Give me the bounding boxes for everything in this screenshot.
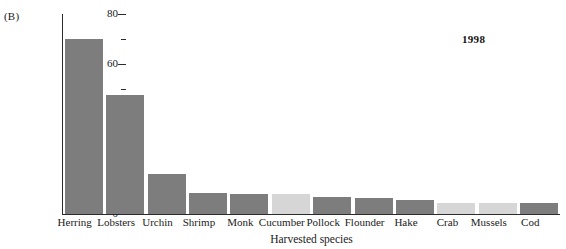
bar [396, 200, 434, 214]
x-axis-line [62, 214, 560, 215]
bar [189, 193, 227, 214]
y-tick-major [118, 214, 126, 215]
bar [106, 95, 144, 214]
panel-label: (B) [4, 10, 19, 22]
bar [479, 203, 517, 214]
bar [437, 203, 475, 214]
bar [520, 203, 558, 214]
bar-series [63, 14, 560, 214]
bar [148, 174, 186, 214]
x-tick-label: Cod [502, 216, 558, 228]
bar [65, 39, 103, 214]
bar [355, 198, 393, 214]
figure-panel-b: (B) 1998 Millions of pounds 020406080 He… [0, 0, 566, 249]
bar [230, 194, 268, 214]
bar [272, 194, 310, 214]
x-axis-ticks: HerringLobstersUrchinShrimpMonkCucumberP… [63, 216, 560, 232]
bar [313, 197, 351, 215]
x-axis-title: Harvested species [63, 233, 560, 245]
